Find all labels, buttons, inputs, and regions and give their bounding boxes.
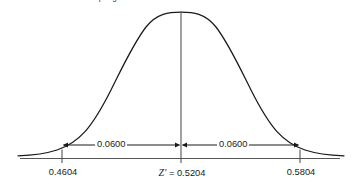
upper-bound-label: 0.5804 — [270, 167, 332, 177]
mean-equals-sign: = — [166, 168, 177, 178]
statistics-figure: Sampling Distribution and Confidence Int… — [0, 0, 356, 184]
left-margin-label: 0.0600 — [95, 139, 127, 150]
lower-bound-label: 0.4604 — [32, 167, 94, 177]
mean-value: 0.5204 — [177, 168, 205, 178]
distribution-plot — [0, 0, 356, 184]
mean-label: Z′ = 0.5204 — [140, 167, 224, 178]
right-margin-label: 0.0600 — [217, 139, 249, 150]
